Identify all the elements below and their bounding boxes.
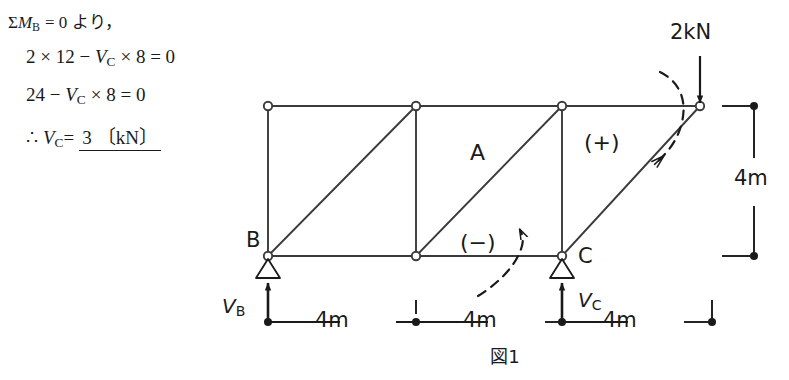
reaction-label-vb: VB: [222, 294, 245, 319]
joint-top-3: [558, 102, 566, 110]
joint-top-4: [696, 102, 704, 110]
diagonal-panel-1: [268, 106, 416, 256]
dimension-label-h1: 4m: [315, 308, 349, 332]
dimension-label-h3: 4m: [603, 308, 637, 332]
figure-page: ΣMB= 0 より， 2 × 12 − VC× 8 = 0 24 − VC× 8…: [0, 0, 789, 380]
support-triangle-c: [550, 259, 574, 278]
figure-caption: 図1: [470, 342, 540, 368]
sign-label-plus: (+): [584, 130, 620, 155]
supports: [256, 259, 574, 278]
dimension-label-vertical: 4m: [734, 166, 768, 190]
reaction-label-vc: VC: [578, 288, 601, 313]
sign-label-minus: (−): [460, 230, 496, 255]
dimension-label-h2: 4m: [463, 308, 497, 332]
support-triangle-b: [256, 259, 280, 278]
support-label-b: B: [246, 228, 260, 252]
member-label-a: A: [470, 140, 485, 165]
joint-top-1: [264, 102, 272, 110]
joint-top-2: [412, 102, 420, 110]
load-label-2kn: 2kN: [670, 20, 711, 44]
truss-diagram: [0, 0, 789, 380]
joint-bottom-mid: [412, 252, 420, 260]
support-label-c: C: [578, 244, 593, 268]
